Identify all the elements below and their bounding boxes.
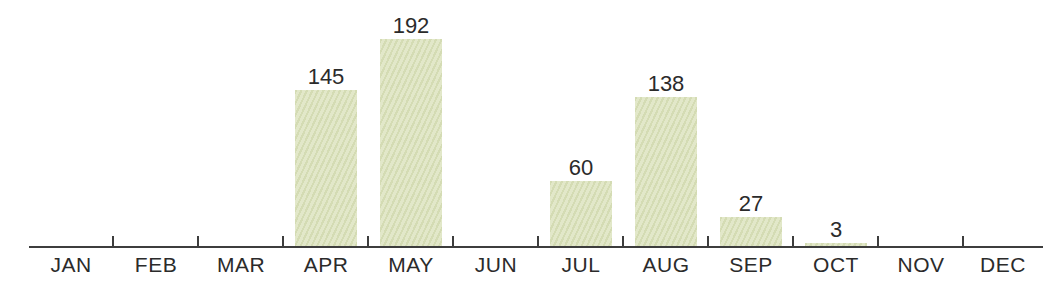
bar-chart: JANFEBMAR145APR192MAYJUN60JUL138AUG27SEP… bbox=[0, 0, 1062, 286]
x-axis-tick bbox=[537, 236, 539, 248]
x-axis-tick bbox=[282, 236, 284, 248]
x-axis-line bbox=[29, 246, 1043, 248]
x-axis-tick bbox=[452, 236, 454, 248]
bar-value-label: 60 bbox=[536, 157, 626, 179]
x-axis-tick bbox=[367, 236, 369, 248]
bar-oct bbox=[805, 243, 867, 246]
bar-value-label: 3 bbox=[791, 219, 881, 241]
bar-value-label: 145 bbox=[281, 66, 371, 88]
bar-aug bbox=[635, 97, 697, 246]
x-axis-tick-label-nov: NOV bbox=[878, 253, 964, 277]
x-axis-tick-label-dec: DEC bbox=[960, 253, 1046, 277]
x-axis-tick-label-apr: APR bbox=[283, 253, 369, 277]
x-axis-tick bbox=[197, 236, 199, 248]
x-axis-tick-label-may: MAY bbox=[368, 253, 454, 277]
x-axis-tick-label-jun: JUN bbox=[453, 253, 539, 277]
bar-value-label: 27 bbox=[706, 193, 796, 215]
x-axis-tick-label-oct: OCT bbox=[793, 253, 879, 277]
bar-jul bbox=[550, 181, 612, 246]
bar-may bbox=[380, 39, 442, 246]
bar-apr bbox=[295, 90, 357, 246]
x-axis-tick-label-mar: MAR bbox=[198, 253, 284, 277]
bar-sep bbox=[720, 217, 782, 246]
x-axis-tick-label-aug: AUG bbox=[623, 253, 709, 277]
x-axis-tick bbox=[962, 236, 964, 248]
bar-value-label: 192 bbox=[366, 15, 456, 37]
x-axis-tick-label-jul: JUL bbox=[538, 253, 624, 277]
x-axis-tick-label-sep: SEP bbox=[708, 253, 794, 277]
x-axis-tick bbox=[622, 236, 624, 248]
x-axis-tick bbox=[112, 236, 114, 248]
bar-value-label: 138 bbox=[621, 73, 711, 95]
x-axis-tick bbox=[707, 236, 709, 248]
x-axis-tick-label-jan: JAN bbox=[28, 253, 114, 277]
x-axis-tick-label-feb: FEB bbox=[113, 253, 199, 277]
